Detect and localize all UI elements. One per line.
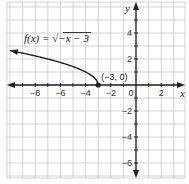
function-curve xyxy=(10,49,98,85)
x-tick-label: −6 xyxy=(55,88,65,98)
function-curve-path xyxy=(10,51,98,85)
y-tick-label: −2 xyxy=(122,106,132,116)
x-tick-label: 2 xyxy=(159,88,164,98)
x-tick-label: −8 xyxy=(30,88,40,98)
y-tick-label: −6 xyxy=(122,158,132,168)
function-label: f(x) = √−x − 3 xyxy=(24,32,89,45)
x-tick-label: −2 xyxy=(106,88,116,98)
y-axis-down-arrow-icon xyxy=(133,170,139,178)
curve-arrow-icon xyxy=(10,49,18,55)
function-graph: −8−6−4−20242−2−4−6 (−3, 0) f(x) = √−x − … xyxy=(0,0,189,184)
x-tick-label: −4 xyxy=(80,88,90,98)
x-axis-left-arrow-icon xyxy=(7,82,15,88)
point-marker xyxy=(96,82,101,87)
x-axis-label: x xyxy=(179,87,185,99)
y-axis-up-arrow-icon xyxy=(133,2,139,10)
y-tick-label: 2 xyxy=(127,54,132,64)
x-tick-label: 0 xyxy=(128,88,133,98)
y-tick-label: −4 xyxy=(122,132,132,142)
point-label: (−3, 0) xyxy=(101,72,127,82)
y-axis-label: y xyxy=(124,2,130,14)
y-tick-label: 4 xyxy=(127,28,132,38)
